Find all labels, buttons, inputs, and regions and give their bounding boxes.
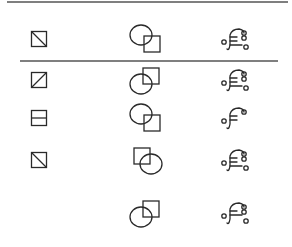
- hook-loop-left: [222, 81, 226, 85]
- option-2-hook-glyph: [222, 108, 246, 129]
- option-1-circle-square: [130, 68, 159, 94]
- circle-shape: [130, 104, 152, 124]
- square-divider: [32, 153, 47, 168]
- option-2-split-square: [32, 111, 47, 126]
- stimulus-figure: [0, 0, 292, 247]
- hook-loop-bottom: [244, 45, 248, 49]
- figure-canvas: [0, 0, 292, 247]
- hook-loop-right: [242, 157, 246, 161]
- option-2-circle-square: [130, 104, 160, 131]
- option-1-hook-glyph: [222, 70, 248, 91]
- circle-shape: [130, 25, 152, 45]
- option-1-split-square: [32, 73, 47, 88]
- option-3-hook-glyph: [222, 150, 248, 171]
- square-shape: [143, 201, 159, 217]
- hook-loop-right: [242, 77, 246, 81]
- option-4-circle-square: [130, 201, 159, 227]
- hook-loop-left: [222, 214, 226, 218]
- square-divider: [32, 73, 47, 88]
- header-circle-square: [130, 25, 160, 52]
- hook-loop-left: [222, 119, 226, 123]
- hook-loop-bottom: [244, 219, 248, 223]
- hook-loop-bottom: [244, 86, 248, 90]
- square-shape: [143, 68, 159, 84]
- figure-cells: [32, 25, 249, 227]
- header-split-square: [32, 32, 47, 47]
- option-3-split-square: [32, 153, 47, 168]
- square-divider: [32, 32, 47, 47]
- hook-loop-left: [222, 161, 226, 165]
- hook-loop-right: [242, 210, 246, 214]
- option-4-hook-glyph: [222, 203, 248, 224]
- option-3-circle-square: [134, 148, 162, 174]
- hook-loop-left: [222, 40, 226, 44]
- hook-loop-right: [242, 36, 246, 40]
- header-hook-glyph: [222, 29, 248, 50]
- hook-loop-bottom: [244, 166, 248, 170]
- square-shape: [134, 148, 150, 164]
